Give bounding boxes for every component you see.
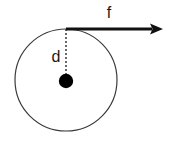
force-label: f xyxy=(107,4,112,21)
distance-label: d xyxy=(52,48,61,65)
figure-background xyxy=(0,0,169,142)
figure-canvas: f d xyxy=(0,0,169,142)
force-diagram-figure: f d xyxy=(0,0,169,142)
